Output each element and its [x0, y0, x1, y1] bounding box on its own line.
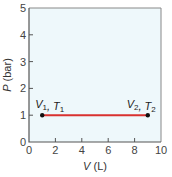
- x-tick-label: 0: [26, 144, 32, 156]
- x-axis-label: V (L): [83, 160, 107, 172]
- x-tick-label: 6: [105, 144, 111, 156]
- x-tick-label: 2: [52, 144, 58, 156]
- y-axis-label: P (bar): [1, 58, 13, 92]
- state-point: [40, 113, 44, 117]
- x-tick-label: 4: [79, 144, 85, 156]
- x-tick-label: 8: [132, 144, 138, 156]
- plot-area: [29, 8, 161, 142]
- y-tick-label: 0: [20, 136, 26, 148]
- y-tick-label: 4: [20, 29, 26, 41]
- y-tick-label: 1: [20, 109, 26, 121]
- y-tick-label: 5: [20, 2, 26, 14]
- y-tick-label: 2: [20, 82, 26, 94]
- x-tick-label: 10: [155, 144, 167, 156]
- pv-chart: 0246810012345 V1, T1V2, T2 V (L)P (bar): [0, 0, 172, 177]
- state-point: [146, 113, 150, 117]
- y-tick-label: 3: [20, 56, 26, 68]
